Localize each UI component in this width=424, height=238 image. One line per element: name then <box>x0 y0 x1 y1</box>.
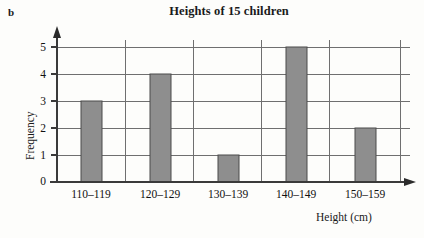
x-axis-arrowhead <box>404 178 416 186</box>
bar-130-139 <box>218 155 239 182</box>
y-axis-arrowhead <box>53 26 61 38</box>
y-tick-2: 2 <box>30 122 46 134</box>
bar-chart-plot <box>0 0 424 238</box>
x-tick-110-119: 110–119 <box>56 188 126 200</box>
x-axis-title: Height (cm) <box>316 211 372 223</box>
x-tick-150-159: 150–159 <box>330 188 400 200</box>
bar-150-159 <box>355 128 376 182</box>
bar-110-119 <box>81 101 102 182</box>
y-tick-1: 1 <box>30 149 46 161</box>
x-tick-120-129: 120–129 <box>125 188 195 200</box>
y-tick-5: 5 <box>30 41 46 53</box>
bar-140-149 <box>286 47 307 182</box>
y-tick-0: 0 <box>30 175 46 187</box>
x-tick-140-149: 140–149 <box>261 188 331 200</box>
y-axis-ticks <box>51 47 57 182</box>
y-tick-3: 3 <box>30 95 46 107</box>
x-tick-130-139: 130–139 <box>193 188 263 200</box>
bar-120-129 <box>150 74 171 182</box>
y-tick-4: 4 <box>30 68 46 80</box>
figure-root: b Heights of 15 children <box>0 0 424 238</box>
